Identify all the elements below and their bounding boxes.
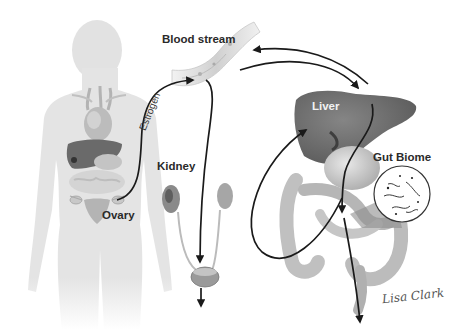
- body-intestines: [69, 170, 125, 194]
- urinary-system: [162, 183, 233, 287]
- diagram-canvas: [0, 0, 458, 333]
- arrow-liver-to-blood: [254, 49, 368, 84]
- label-gut-biome: Gut Biome: [373, 151, 431, 163]
- label-liver: Liver: [312, 100, 340, 112]
- arrow-blood-to-liver: [240, 62, 358, 88]
- label-blood-stream: Blood stream: [162, 33, 236, 45]
- arrow-blood-to-bladder: [200, 80, 212, 262]
- blood-vessel: [172, 22, 260, 86]
- label-ovary: Ovary: [102, 209, 135, 221]
- label-kidney: Kidney: [157, 160, 195, 172]
- body-liver: [67, 140, 122, 171]
- stomach: [324, 146, 380, 190]
- gut-biome-magnifier: [374, 166, 430, 222]
